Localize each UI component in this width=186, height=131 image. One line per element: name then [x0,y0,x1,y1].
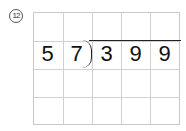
answer-grid [33,12,180,125]
dividend-digit: 9 [121,40,150,68]
divisor-digit: 5 [33,40,62,68]
grid-line [34,69,179,70]
grid-line [34,97,179,98]
dividend-digit: 3 [92,40,121,68]
division-bar [89,40,181,41]
dividend-digit: 9 [150,40,179,68]
problem-number: 12 [9,9,23,23]
